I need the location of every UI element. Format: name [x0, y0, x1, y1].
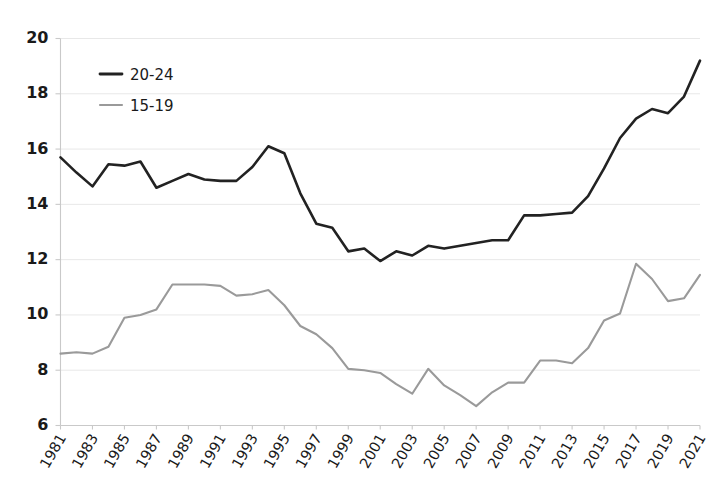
x-axis-tick-label: 2003 [388, 431, 420, 471]
x-axis-tick-label: 1991 [197, 431, 229, 471]
x-axis-tick-label: 1983 [69, 431, 101, 471]
legend-label-15-19: 15-19 [130, 97, 174, 115]
x-axis-tick-label: 2021 [676, 431, 708, 471]
y-axis-tick-label: 6 [37, 415, 48, 434]
y-axis-tick-label: 14 [26, 194, 48, 213]
x-axis-tick-label: 2011 [516, 431, 548, 471]
x-axis-tick-label: 1981 [37, 431, 69, 471]
x-axis-tick-label: 1995 [261, 431, 293, 471]
y-axis-tick-label: 16 [26, 139, 48, 158]
x-axis-tick-label: 1999 [325, 431, 357, 471]
x-axis-tick-label: 2019 [644, 431, 676, 471]
x-axis-tick-label: 1993 [229, 431, 261, 471]
x-axis-tick-label: 2017 [612, 431, 644, 471]
y-axis-tick-label: 8 [37, 360, 48, 379]
x-axis-tick-label: 2013 [548, 431, 580, 471]
x-axis-tick-label: 2009 [484, 431, 516, 471]
x-axis-tick-label: 1985 [101, 431, 133, 471]
chart-canvas: 6810121416182019811983198519871989199119… [0, 0, 713, 488]
series-line-20-24 [61, 61, 701, 261]
y-axis-tick-label: 12 [26, 249, 48, 268]
y-axis-tick-label: 10 [26, 304, 48, 323]
x-axis-tick-label: 2015 [580, 431, 612, 471]
series-line-15-19 [61, 264, 701, 406]
legend-label-20-24: 20-24 [130, 66, 174, 84]
line-chart: 6810121416182019811983198519871989199119… [0, 0, 713, 488]
x-axis-tick-label: 1987 [133, 431, 165, 471]
x-axis-tick-label: 2001 [357, 431, 389, 471]
y-axis-tick-label: 18 [26, 83, 48, 102]
x-axis-tick-label: 1989 [165, 431, 197, 471]
x-axis-tick-label: 2005 [420, 431, 452, 471]
y-axis-tick-label: 20 [26, 28, 48, 47]
x-axis-tick-label: 2007 [452, 431, 484, 471]
x-axis-tick-label: 1997 [293, 431, 325, 471]
